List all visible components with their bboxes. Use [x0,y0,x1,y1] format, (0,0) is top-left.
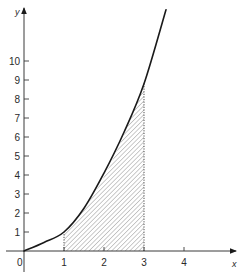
x-tick-label: 1 [61,257,67,268]
y-tick-label: 1 [14,227,20,238]
y-tick-label: 7 [14,113,20,124]
y-tick-label: 6 [14,132,20,143]
y-tick-label: 8 [14,94,20,105]
chart-canvas: 1234 12345678910 0 y x [0,0,245,275]
y-tick-label: 3 [14,189,20,200]
y-axis-ticks: 12345678910 [9,56,29,238]
x-tick-label: 3 [141,257,147,268]
y-tick-label: 5 [14,151,20,162]
shaded-area-region [64,83,144,251]
area-under-curve-figure: 1234 12345678910 0 y x [0,0,245,275]
y-tick-label: 10 [9,56,21,67]
x-tick-label: 4 [181,257,187,268]
x-axis-label: x [231,259,237,269]
y-tick-label: 2 [14,208,20,219]
y-axis-label: y [14,7,20,17]
y-tick-label: 4 [14,170,20,181]
origin-label: 0 [17,257,23,268]
hatched-area [64,83,144,251]
y-tick-label: 9 [14,75,20,86]
x-tick-label: 2 [101,257,107,268]
